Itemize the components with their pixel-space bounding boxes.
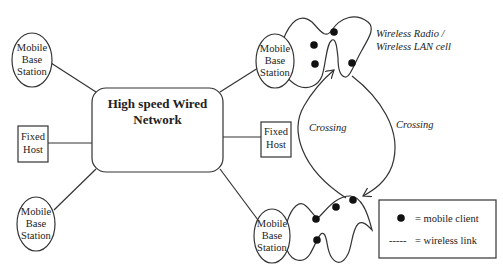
mobile-clients-top	[310, 28, 356, 68]
mobile-client-icon	[348, 59, 356, 67]
mobile-client-icon	[330, 28, 338, 36]
svg-text:Mobile: Mobile	[17, 42, 48, 53]
mobile-client-icon	[310, 41, 318, 49]
svg-text:Station: Station	[21, 230, 52, 241]
mobile-client-icon	[397, 214, 405, 222]
cell-label-line1: Wireless Radio /	[376, 28, 446, 39]
svg-text:Fixed: Fixed	[264, 126, 289, 137]
network-label-line2: Network	[133, 112, 182, 127]
svg-text:Base: Base	[22, 54, 43, 65]
mobile-client-icon	[312, 215, 320, 223]
svg-text:Base: Base	[262, 230, 283, 241]
crossing-arrow-up	[298, 70, 346, 198]
legend-mobile-client: = mobile client	[415, 213, 479, 224]
crossing-label-left: Crossing	[309, 122, 347, 133]
svg-text:Station: Station	[17, 66, 48, 77]
network-diagram: High speed Wired Network Crossing Crossi…	[0, 0, 503, 269]
link-mbs-right-top	[220, 68, 258, 92]
mobile-client-icon	[332, 203, 340, 211]
svg-text:Host: Host	[23, 144, 43, 155]
svg-text:Station: Station	[260, 67, 291, 78]
legend: = mobile client ----- = wireless link	[379, 200, 496, 258]
mobile-client-icon	[313, 236, 321, 244]
network-label-line1: High speed Wired	[108, 96, 208, 111]
svg-text:Station: Station	[257, 242, 288, 253]
legend-wireless-link: = wireless link	[415, 235, 478, 246]
svg-text:Base: Base	[26, 218, 47, 229]
mobile-base-station-right-top: Mobile Base Station	[256, 34, 294, 88]
crossing-arrow-down	[352, 76, 395, 196]
cell-label-line2: Wireless LAN cell	[376, 41, 451, 52]
svg-text:Fixed: Fixed	[21, 131, 46, 142]
legend-box	[379, 200, 496, 258]
fixed-host-left: Fixed Host	[18, 126, 48, 162]
link-mbs-left-top	[51, 63, 96, 92]
mobile-client-icon	[349, 196, 357, 204]
wired-network: High speed Wired Network	[92, 88, 223, 172]
svg-text:Host: Host	[266, 139, 286, 150]
mobile-client-icon	[311, 60, 319, 68]
mobile-base-station-right-bottom: Mobile Base Station	[254, 209, 290, 263]
svg-text:Mobile: Mobile	[257, 218, 288, 229]
crossing-label-right: Crossing	[396, 119, 434, 130]
mobile-base-station-left-bottom: Mobile Base Station	[17, 197, 55, 251]
legend-wireless-link-symbol: -----	[389, 235, 407, 246]
wireless-cell-bottom	[287, 196, 372, 262]
svg-text:Mobile: Mobile	[21, 206, 52, 217]
link-mbs-left-bottom	[54, 169, 96, 210]
link-mbs-right-bottom	[220, 169, 258, 220]
fixed-host-right: Fixed Host	[261, 122, 291, 157]
svg-text:Base: Base	[265, 55, 286, 66]
svg-text:Mobile: Mobile	[260, 43, 291, 54]
mobile-base-station-left-top: Mobile Base Station	[12, 33, 52, 87]
